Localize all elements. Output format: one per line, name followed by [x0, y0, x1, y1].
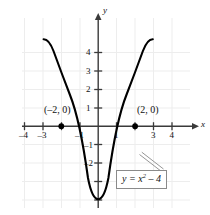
y-tick-label-1: 1: [86, 104, 91, 113]
x-tick-label--4: –4: [19, 131, 28, 140]
x-tick-label-1: 1: [114, 131, 119, 140]
x-tick-label-3: 3: [151, 131, 156, 140]
point-label-left: (–2, 0): [44, 105, 71, 115]
x-tick-label-4: 4: [170, 131, 175, 140]
equation-prefix: y = x: [122, 173, 143, 184]
x-tick-label--3: –3: [38, 131, 47, 140]
x-tick-label--1: –1: [75, 131, 84, 140]
intercept-point-left: [58, 123, 64, 129]
y-tick-label-3: 3: [86, 67, 91, 76]
y-tick-label-2: 2: [86, 85, 91, 94]
point-label-right: (2, 0): [137, 105, 159, 115]
graph-figure: x y –4 –3 –1 1 3 4 4 3 2 1 –1 –2 (–2, 0)…: [0, 0, 210, 215]
y-axis: [95, 13, 102, 208]
equation-suffix: – 4: [146, 173, 161, 184]
y-tick-label--2: –2: [84, 159, 93, 168]
y-tick-label-4: 4: [86, 48, 91, 57]
y-tick-label--1: –1: [84, 141, 93, 150]
y-axis-label: y: [103, 6, 107, 15]
x-axis-label: x: [201, 120, 205, 129]
callout-leader-line: [140, 152, 164, 171]
equation-callout-box: y = x2 – 4: [116, 170, 167, 189]
parabola-plot: [0, 0, 210, 215]
intercept-point-right: [132, 123, 138, 129]
